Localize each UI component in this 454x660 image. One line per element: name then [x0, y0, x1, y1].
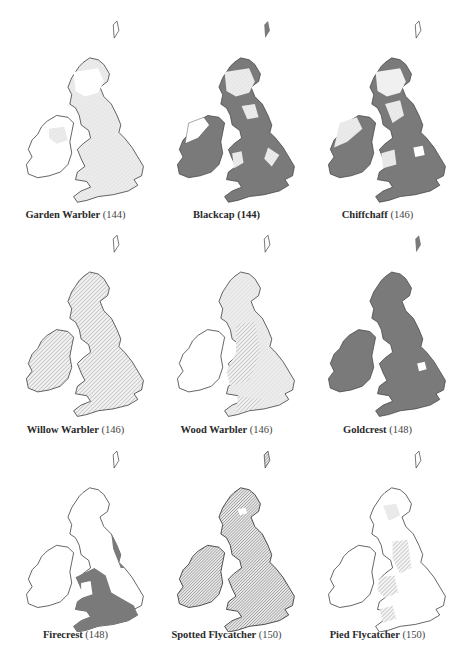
page-reference: (146) — [250, 424, 273, 435]
species-label: Willow Warbler (146) — [0, 424, 151, 435]
species-label: Blackcap (144) — [151, 209, 302, 220]
panel-pied-flycatcher: Pied Flycatcher (150) — [302, 436, 453, 660]
species-label: Chiffchaff (146) — [302, 209, 453, 220]
page-reference: (148) — [85, 629, 108, 640]
species-label: Wood Warbler (146) — [151, 424, 302, 435]
species-name: Wood Warbler — [181, 424, 248, 435]
map-blackcap — [151, 0, 302, 212]
species-label: Garden Warbler (144) — [0, 209, 151, 220]
panel-garden-warbler: Garden Warbler (144) — [0, 0, 151, 222]
page-reference: (148) — [389, 424, 412, 435]
map-firecrest — [0, 436, 151, 632]
page-reference: (144) — [237, 209, 260, 220]
species-name: Chiffchaff — [342, 209, 388, 220]
page-reference: (144) — [103, 209, 126, 220]
panel-willow-warbler: Willow Warbler (146) — [0, 222, 151, 436]
species-label: Spotted Flycatcher (150) — [151, 629, 302, 640]
species-name: Blackcap — [193, 209, 234, 220]
species-name: Goldcrest — [343, 424, 387, 435]
species-label: Pied Flycatcher (150) — [302, 629, 453, 640]
map-pied-flycatcher — [302, 436, 453, 632]
species-label: Goldcrest (148) — [302, 424, 453, 435]
map-goldcrest — [302, 222, 453, 424]
page-reference: (150) — [403, 629, 426, 640]
panel-blackcap: Blackcap (144) — [151, 0, 302, 222]
species-name: Firecrest — [43, 629, 83, 640]
panel-firecrest: Firecrest (148) — [0, 436, 151, 660]
panel-goldcrest: Goldcrest (148) — [302, 222, 453, 436]
map-garden-warbler — [0, 0, 151, 212]
species-name: Pied Flycatcher — [330, 629, 400, 640]
map-willow-warbler — [0, 222, 151, 424]
page-reference: (150) — [259, 629, 282, 640]
species-name: Spotted Flycatcher — [171, 629, 256, 640]
panel-spotted-flycatcher: Spotted Flycatcher (150) — [151, 436, 302, 660]
map-spotted-flycatcher — [151, 436, 302, 632]
species-label: Firecrest (148) — [0, 629, 151, 640]
panel-chiffchaff: Chiffchaff (146) — [302, 0, 453, 222]
map-wood-warbler — [151, 222, 302, 424]
panel-wood-warbler: Wood Warbler (146) — [151, 222, 302, 436]
species-name: Garden Warbler — [25, 209, 100, 220]
page-reference: (146) — [390, 209, 413, 220]
map-chiffchaff — [302, 0, 453, 212]
page-reference: (146) — [102, 424, 125, 435]
species-name: Willow Warbler — [27, 424, 99, 435]
